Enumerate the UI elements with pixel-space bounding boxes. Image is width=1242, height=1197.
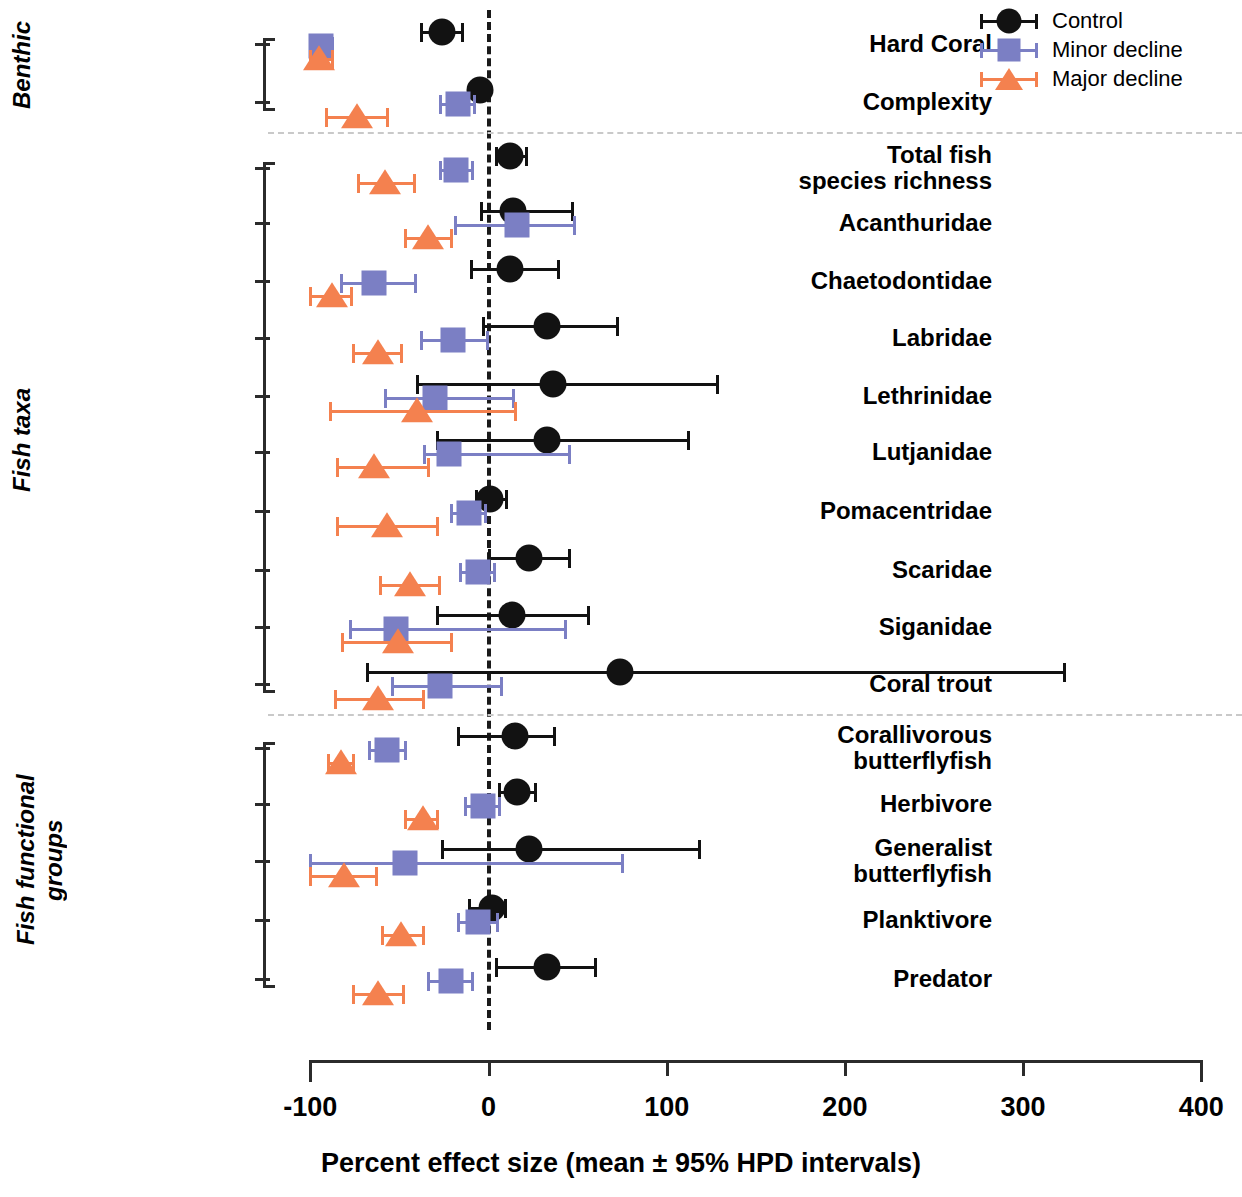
square-marker-icon bbox=[392, 851, 417, 876]
ci-cap-upper bbox=[375, 867, 378, 886]
ci-cap-upper bbox=[493, 563, 496, 582]
bracket-cap-top-fish-functional-groups bbox=[263, 742, 275, 745]
x-tick-label-4: 300 bbox=[1001, 1092, 1046, 1123]
ci-cap-lower bbox=[334, 690, 337, 709]
square-marker-icon bbox=[428, 674, 453, 699]
ci-cap-upper bbox=[568, 445, 571, 464]
ci-cap-upper bbox=[404, 741, 407, 760]
ci-cap-upper bbox=[698, 840, 701, 859]
ci-cap-lower bbox=[352, 344, 355, 363]
ci-cap-lower bbox=[384, 389, 387, 408]
ci-cap-lower bbox=[427, 972, 430, 991]
triangle-marker-icon bbox=[362, 980, 394, 1005]
circle-marker-icon bbox=[498, 602, 525, 629]
circle-marker-icon bbox=[539, 371, 566, 398]
circle-marker-icon bbox=[534, 954, 561, 981]
ci-cap-lower bbox=[366, 663, 369, 682]
square-marker-icon bbox=[471, 794, 496, 819]
ci-cap-lower bbox=[495, 958, 498, 977]
ci-cap-upper bbox=[438, 576, 441, 595]
ci-cap-upper bbox=[534, 783, 537, 802]
legend-label-control: Control bbox=[1040, 10, 1123, 32]
ci-cap-upper bbox=[413, 174, 416, 193]
square-marker-icon bbox=[362, 271, 387, 296]
category-label-13: Herbivore bbox=[880, 791, 992, 817]
triangle-marker-icon bbox=[303, 45, 335, 70]
triangle-marker-icon bbox=[316, 282, 348, 307]
x-tick-5 bbox=[1200, 1060, 1203, 1082]
ci-cap-lower bbox=[454, 216, 457, 235]
square-marker-icon bbox=[439, 969, 464, 994]
ci-cap-upper bbox=[587, 606, 590, 625]
x-tick-1 bbox=[488, 1060, 491, 1076]
category-label-0: Hard Coral bbox=[869, 31, 992, 57]
ci-cap-lower bbox=[341, 633, 344, 652]
category-label-4: Chaetodontidae bbox=[811, 268, 992, 294]
bracket-cap-top-fish-taxa bbox=[263, 162, 275, 165]
ci-bar bbox=[417, 383, 716, 386]
square-marker-icon bbox=[437, 442, 462, 467]
legend-marker-circle-icon bbox=[978, 8, 1040, 34]
ci-cap-upper bbox=[461, 23, 464, 42]
ci-cap-upper bbox=[568, 549, 571, 568]
ci-cap-upper bbox=[422, 926, 425, 945]
triangle-marker-icon bbox=[369, 169, 401, 194]
category-label-15: Planktivore bbox=[863, 907, 992, 933]
ci-cap-lower bbox=[336, 517, 339, 536]
ci-cap-upper bbox=[1063, 663, 1066, 682]
circle-marker-icon bbox=[607, 659, 634, 686]
triangle-marker-icon bbox=[382, 628, 414, 653]
ci-cap-upper bbox=[471, 972, 474, 991]
ci-cap-lower bbox=[441, 840, 444, 859]
circle-marker-icon bbox=[502, 723, 529, 750]
ci-cap-upper bbox=[594, 958, 597, 977]
ci-cap-lower bbox=[379, 576, 382, 595]
ci-cap-lower bbox=[439, 161, 442, 180]
ci-cap-lower bbox=[420, 331, 423, 350]
ci-cap-upper bbox=[687, 431, 690, 450]
square-marker-icon bbox=[374, 738, 399, 763]
square-marker-icon bbox=[505, 213, 530, 238]
circle-marker-icon bbox=[516, 836, 543, 863]
ci-cap-upper bbox=[414, 274, 417, 293]
ci-cap-lower bbox=[381, 926, 384, 945]
ci-cap-lower bbox=[325, 108, 328, 127]
group-label-2: Fish functional groups bbox=[12, 745, 68, 975]
triangle-marker-icon bbox=[412, 224, 444, 249]
legend-item-minor-decline: Minor decline bbox=[978, 35, 1228, 64]
bracket-benthic bbox=[263, 38, 266, 108]
x-axis-label: Percent effect size (mean ± 95% HPD inte… bbox=[0, 1148, 1242, 1179]
ci-cap-lower bbox=[349, 620, 352, 639]
ci-cap-lower bbox=[439, 95, 442, 114]
x-tick-label-5: 400 bbox=[1179, 1092, 1224, 1123]
circle-marker-icon bbox=[534, 427, 561, 454]
triangle-marker-icon bbox=[371, 512, 403, 537]
ci-cap-lower bbox=[416, 375, 419, 394]
bracket-cap-bottom-benthic bbox=[263, 108, 275, 111]
square-marker-icon bbox=[456, 501, 481, 526]
x-tick-4 bbox=[1022, 1060, 1025, 1076]
ci-cap-upper bbox=[496, 913, 499, 932]
ci-cap-upper bbox=[616, 317, 619, 336]
group-separator-1 bbox=[268, 714, 1242, 716]
plot-area: Hard CoralComplexityTotal fish species r… bbox=[0, 0, 1242, 1197]
x-tick-label-0: -100 bbox=[283, 1092, 337, 1123]
ci-cap-lower bbox=[457, 913, 460, 932]
circle-marker-icon bbox=[534, 313, 561, 340]
legend-label-major-decline: Major decline bbox=[1040, 68, 1183, 90]
ci-cap-lower bbox=[464, 797, 467, 816]
ci-cap-upper bbox=[573, 216, 576, 235]
ci-cap-lower bbox=[470, 260, 473, 279]
triangle-marker-icon bbox=[407, 805, 439, 830]
circle-marker-icon bbox=[496, 143, 523, 170]
square-marker-icon bbox=[446, 92, 471, 117]
x-tick-label-2: 100 bbox=[644, 1092, 689, 1123]
circle-marker-icon bbox=[516, 545, 543, 572]
ci-cap-upper bbox=[525, 147, 528, 166]
ci-cap-lower bbox=[352, 985, 355, 1004]
ci-cap-lower bbox=[404, 229, 407, 248]
category-label-1: Complexity bbox=[863, 89, 992, 115]
square-marker-icon bbox=[465, 910, 490, 935]
ci-cap-upper bbox=[564, 620, 567, 639]
group-label-0: Benthic bbox=[8, 10, 36, 120]
